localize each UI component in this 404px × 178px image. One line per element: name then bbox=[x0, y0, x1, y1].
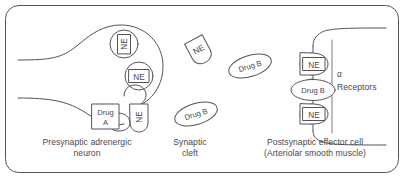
vesicle-ne-upper: NE bbox=[110, 30, 138, 58]
adrenergic-synapse-figure: NE NE NE Drug A Presynaptic adre bbox=[0, 0, 404, 178]
receptor-drug-b-token: Drug B bbox=[291, 80, 335, 101]
postsynaptic-caption-line2: (Arteriolar smooth muscle) bbox=[264, 148, 366, 158]
vesicle-ne-lower-label: NE bbox=[133, 73, 145, 82]
receptor-ne-top-token: NE bbox=[300, 53, 328, 75]
alpha-receptor-symbol: α bbox=[337, 69, 342, 79]
cleft-ne-token: NE bbox=[185, 35, 215, 67]
receptor-drug-b-label: Drug B bbox=[301, 86, 325, 95]
drug-a-token: Drug A bbox=[92, 104, 130, 131]
drug-a-label-line1: Drug bbox=[97, 108, 113, 117]
cleft-drug-b-lower-token: Drug B bbox=[172, 98, 220, 131]
figure-canvas: NE NE NE Drug A Presynaptic adre bbox=[0, 0, 404, 178]
receptor-ne-bottom-label: NE bbox=[308, 111, 320, 120]
alpha-receptor-caption: Receptors bbox=[337, 82, 377, 92]
postsynaptic-caption-line1: Postsynaptic effector cell bbox=[267, 137, 363, 147]
cleft-drug-b-upper-token: Drug B bbox=[226, 50, 274, 83]
cleft-caption-line1: Synaptic bbox=[173, 137, 207, 147]
releasing-ne-token: NE bbox=[130, 104, 148, 132]
presynaptic-caption-line1: Presynaptic adrenergic bbox=[43, 137, 133, 147]
presynaptic-caption-line2: neuron bbox=[73, 148, 100, 158]
releasing-ne-label: NE bbox=[135, 111, 144, 123]
receptor-ne-top-label: NE bbox=[308, 61, 320, 70]
receptor-ne-bottom-token: NE bbox=[300, 104, 328, 124]
cleft-caption-line2: cleft bbox=[182, 148, 199, 158]
vesicle-ne-upper-label: NE bbox=[120, 38, 129, 50]
